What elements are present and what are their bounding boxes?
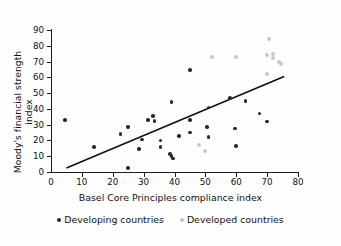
data-point (126, 166, 130, 170)
y-tick-label: 60 (0, 72, 44, 82)
y-tick-label: 10 (0, 151, 44, 161)
x-tick-mark (236, 173, 237, 177)
y-tick-label: 0 (0, 167, 44, 177)
data-point (234, 144, 238, 148)
legend-marker-dot-gray-icon (180, 218, 184, 222)
y-tick-label: 80 (0, 41, 44, 51)
x-tick-mark (267, 173, 268, 177)
legend-marker-dot-dark-icon (57, 218, 61, 222)
x-tick-mark (205, 173, 206, 177)
legend-label: Developed countries (187, 214, 284, 225)
y-tick-label: 40 (0, 104, 44, 114)
data-point (151, 114, 155, 118)
x-tick-label: 30 (138, 177, 149, 187)
data-point (119, 132, 123, 136)
x-tick-label: 40 (169, 177, 180, 187)
trend-line (51, 30, 298, 172)
data-point (92, 145, 96, 149)
data-point (137, 147, 141, 151)
x-tick-mark (298, 173, 299, 177)
data-point (63, 118, 67, 122)
x-tick-label: 10 (76, 177, 87, 187)
y-tick-label: 30 (0, 120, 44, 130)
x-tick-label: 0 (48, 177, 54, 187)
data-point (244, 99, 248, 103)
data-point (228, 96, 232, 100)
data-point (188, 118, 192, 122)
data-point (233, 127, 237, 131)
x-tick-mark (144, 173, 145, 177)
legend-item-developing: Developing countries (57, 214, 164, 225)
x-axis-title: Basel Core Principles compliance index (0, 192, 341, 203)
legend-label: Developing countries (64, 214, 164, 225)
data-point (210, 55, 214, 59)
data-point (279, 62, 283, 66)
x-tick-label: 50 (200, 177, 211, 187)
x-tick-label: 70 (262, 177, 273, 187)
y-tick-mark (47, 172, 51, 173)
y-tick-label: 20 (0, 135, 44, 145)
data-point (271, 52, 275, 56)
data-point (126, 125, 130, 129)
scatter-chart-figure: Moody's financial strength index 0102030… (0, 0, 341, 246)
data-point (188, 131, 192, 135)
data-point (177, 134, 181, 138)
y-tick-label: 70 (0, 57, 44, 67)
chart-legend: Developing countries Developed countries (0, 214, 341, 225)
x-tick-mark (175, 173, 176, 177)
data-point (188, 68, 192, 72)
x-tick-label: 60 (231, 177, 242, 187)
y-tick-label: 50 (0, 88, 44, 98)
data-point (205, 125, 209, 129)
data-point (146, 118, 150, 122)
x-tick-label: 80 (292, 177, 303, 187)
x-tick-mark (82, 173, 83, 177)
legend-item-developed: Developed countries (180, 214, 284, 225)
x-tick-mark (113, 173, 114, 177)
x-tick-label: 20 (107, 177, 118, 187)
data-point (153, 119, 157, 123)
data-point (170, 100, 174, 104)
plot-area (51, 30, 298, 172)
y-tick-label: 90 (0, 25, 44, 35)
data-point (159, 145, 163, 149)
